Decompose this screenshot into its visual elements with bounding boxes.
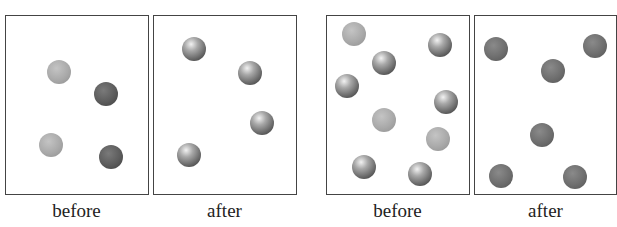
particle-medium bbox=[530, 123, 554, 147]
panel-label: before bbox=[5, 200, 148, 222]
particle-light bbox=[47, 60, 71, 84]
particle-shiny bbox=[335, 74, 359, 98]
particle-medium bbox=[541, 59, 565, 83]
particle-shiny bbox=[408, 162, 432, 186]
panel-4-after bbox=[474, 15, 617, 195]
particle-light bbox=[342, 22, 366, 46]
panel-label: after bbox=[153, 200, 296, 222]
particle-shiny bbox=[250, 111, 274, 135]
particle-dark bbox=[94, 82, 118, 106]
particle-light bbox=[39, 133, 63, 157]
particle-medium bbox=[484, 37, 508, 61]
particle-light bbox=[372, 108, 396, 132]
particle-medium bbox=[583, 34, 607, 58]
particle-light bbox=[426, 127, 450, 151]
panel-3-before bbox=[326, 15, 470, 195]
particle-dark bbox=[99, 145, 123, 169]
particle-shiny bbox=[428, 33, 452, 57]
particle-medium bbox=[563, 165, 587, 189]
panel-label: after bbox=[474, 200, 617, 222]
panel-1-before bbox=[5, 15, 149, 195]
particle-shiny bbox=[182, 37, 206, 61]
particle-medium bbox=[489, 164, 513, 188]
particle-shiny bbox=[352, 155, 376, 179]
particle-shiny bbox=[372, 51, 396, 75]
panel-2-after bbox=[153, 15, 297, 195]
particle-shiny bbox=[177, 143, 201, 167]
particle-shiny bbox=[434, 90, 458, 114]
panel-label: before bbox=[326, 200, 469, 222]
particle-shiny bbox=[238, 61, 262, 85]
